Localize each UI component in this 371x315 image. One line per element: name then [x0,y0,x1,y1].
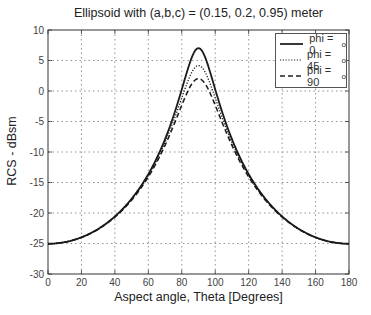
x-tick-label: 100 [207,277,224,288]
x-tick-label: 160 [307,277,324,288]
y-tick-label: -10 [30,147,45,158]
legend-item-phi-90: phi = 90o [280,69,346,83]
y-tick-label: 5 [38,55,44,66]
y-axis-label: RCS - dBsm [5,101,19,201]
x-tick-label: 60 [143,277,155,288]
legend: phi = 0o phi = 45o phi = 90o [275,33,347,88]
x-axis-label: Aspect angle, Theta [Degrees] [48,290,349,304]
chart-title: Ellipsoid with (a,b,c) = (0.15, 0.2, 0.9… [48,6,349,20]
y-tick-label: 10 [33,25,45,36]
x-tick-label: 0 [45,277,51,288]
series-line-dashed [48,79,349,244]
y-tick-label: -5 [35,116,44,127]
x-tick-label: 120 [240,277,257,288]
y-tick-label: -15 [30,177,45,188]
solid-line-icon [280,41,303,47]
series-line-dotted [48,66,349,244]
x-tick-label: 80 [176,277,188,288]
x-tick-label: 40 [109,277,121,288]
x-tick-label: 140 [274,277,291,288]
y-tick-label: -30 [30,269,45,280]
x-tick-label: 20 [76,277,88,288]
y-tick-label: 0 [38,86,44,97]
y-tick-label: -20 [30,208,45,219]
y-tick-label: -25 [30,238,45,249]
dashed-line-icon [280,73,301,79]
x-tick-label: 180 [341,277,358,288]
legend-label: phi = 90 [307,64,342,88]
dotted-line-icon [280,57,301,63]
